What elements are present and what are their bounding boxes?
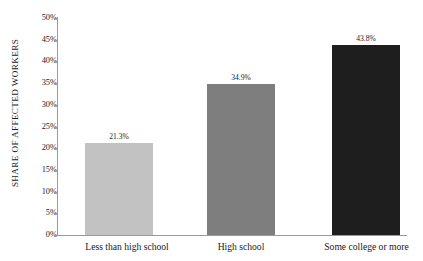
y-tick-label: 45% (3, 35, 57, 43)
x-axis-line (57, 235, 407, 236)
y-tick-label: 10% (3, 187, 57, 195)
bar-chart: SHARE OF AFFECTED WORKERS 50% 45% 40% 35… (0, 0, 423, 261)
bar-value-label: 34.9% (189, 74, 293, 82)
bar-less-than-high-school (85, 143, 153, 235)
y-tick-label: 40% (3, 57, 57, 65)
y-tick-label: 5% (3, 209, 57, 217)
y-tick-label: 30% (3, 101, 57, 109)
y-tick-label: 50% (3, 14, 57, 22)
bar-high-school (207, 84, 275, 235)
y-tick-label: 25% (3, 122, 57, 130)
y-tick-label: 0% (3, 231, 57, 239)
y-tick-label: 35% (3, 79, 57, 87)
x-axis-labels: Less than high school High school Some c… (57, 238, 407, 260)
bar-some-college-or-more (332, 45, 400, 235)
bar-group-some-college-or-more: 43.8% (332, 18, 400, 235)
bar-value-label: 43.8% (314, 35, 418, 43)
y-tick-label: 20% (3, 144, 57, 152)
bar-group-high-school: 34.9% (207, 18, 275, 235)
bar-group-less-than-high-school: 21.3% (85, 18, 153, 235)
bars-container: 21.3% 34.9% 43.8% (57, 18, 407, 235)
y-axis-ticks: 50% 45% 40% 35% 30% 25% 20% 15% 10% 5% 0… (0, 0, 57, 261)
bar-value-label: 21.3% (67, 133, 171, 141)
x-tick-label-some-college-or-more: Some college or more (289, 241, 423, 253)
y-tick-label: 15% (3, 166, 57, 174)
